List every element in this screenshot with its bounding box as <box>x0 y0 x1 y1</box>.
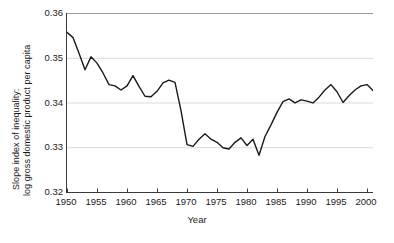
y-axis-title-line-2: log gross domestic product per capita <box>22 45 32 196</box>
y-tick-label: 0.36 <box>35 8 63 18</box>
gridlines <box>67 14 373 148</box>
y-axis-title: Slope index of inequality: log gross dom… <box>0 0 34 200</box>
x-axis-tick-labels: 1950195519601965197019751980198519901995… <box>0 196 394 210</box>
y-tick-label: 0.33 <box>35 142 63 152</box>
line-chart-svg <box>67 13 373 192</box>
data-series-line <box>67 32 373 155</box>
x-tick-label: 2000 <box>346 196 386 207</box>
chart-figure: Slope index of inequality: log gross dom… <box>0 0 394 243</box>
x-axis-title: Year <box>0 214 394 225</box>
x-axis-tick-marks <box>68 189 368 193</box>
y-axis-title-line-1: Slope index of inequality: <box>11 89 21 190</box>
y-tick-label: 0.35 <box>35 53 63 63</box>
plot-area <box>66 13 373 193</box>
y-tick-label: 0.34 <box>35 98 63 108</box>
